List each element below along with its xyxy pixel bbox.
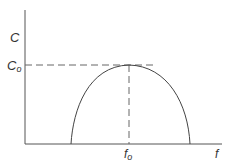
peak-frequency-label-sub: o xyxy=(127,152,132,162)
peak-value-label-sub: o xyxy=(16,64,21,74)
peak-value-label: Co xyxy=(7,58,21,74)
peak-frequency-label: fo xyxy=(124,147,132,162)
y-axis-label: C xyxy=(10,30,20,45)
x-axis-label: f xyxy=(215,147,220,161)
response-curve xyxy=(71,65,190,144)
diagram-canvas: C Co fo f xyxy=(0,0,228,165)
